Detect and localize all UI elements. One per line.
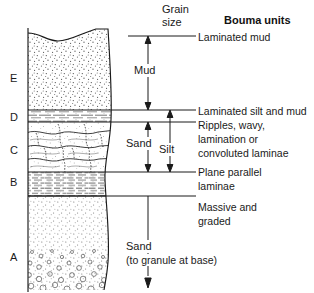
description-plane-parallel-line2: laminae bbox=[198, 180, 235, 193]
grain-size-header-line2: size bbox=[162, 16, 182, 29]
description-laminated-mud: Laminated mud bbox=[198, 31, 270, 44]
sand-basal-arrow-head-down bbox=[145, 278, 151, 288]
description-ripples-line3: convoluted laminae bbox=[198, 147, 288, 160]
unit-E-fill bbox=[26, 28, 116, 110]
description-ripples-line1: Ripples, wavy, bbox=[198, 119, 265, 132]
grain-size-label-mud: Mud bbox=[132, 64, 157, 77]
description-plane-parallel-line1: Plane parallel bbox=[198, 166, 262, 179]
grain-size-header-line1: Grain bbox=[162, 3, 189, 16]
figure-canvas: Grain size Bouma units E D C B A Mud San… bbox=[0, 0, 314, 293]
description-massive-line2: graded bbox=[198, 215, 231, 228]
unit-B-fill bbox=[26, 172, 116, 196]
bouma-units-header: Bouma units bbox=[224, 14, 291, 27]
grain-size-label-sand-basal: Sand bbox=[124, 240, 154, 253]
unit-letter-E: E bbox=[10, 72, 17, 85]
unit-letter-C: C bbox=[10, 144, 18, 157]
sand-upper-arrow-head-up bbox=[145, 122, 151, 130]
mud-arrow-head-down bbox=[145, 103, 151, 111]
lithology-column-fills bbox=[26, 28, 116, 292]
unit-C-fill bbox=[26, 122, 116, 172]
grain-size-label-silt: Silt bbox=[157, 143, 176, 156]
silt-arrow-head-up bbox=[167, 110, 173, 118]
description-laminated-silt-and-mud: Laminated silt and mud bbox=[198, 105, 307, 118]
mud-arrow-head-up bbox=[145, 36, 151, 44]
unit-letter-A: A bbox=[10, 251, 17, 264]
unit-letter-B: B bbox=[10, 176, 17, 189]
unit-D-fill bbox=[26, 110, 116, 122]
description-massive-line1: Massive and bbox=[198, 201, 257, 214]
silt-arrow-head-down bbox=[167, 165, 173, 173]
sand-upper-arrow-head-down bbox=[145, 165, 151, 173]
grain-size-label-sand-upper: Sand bbox=[124, 137, 154, 150]
unit-A-fill bbox=[26, 196, 116, 292]
unit-letter-D: D bbox=[10, 111, 18, 124]
grain-size-label-sand-basal-note: (to granule at base) bbox=[124, 254, 219, 266]
description-ripples-line2: lamination or bbox=[198, 133, 258, 146]
tie-lines bbox=[106, 36, 196, 196]
